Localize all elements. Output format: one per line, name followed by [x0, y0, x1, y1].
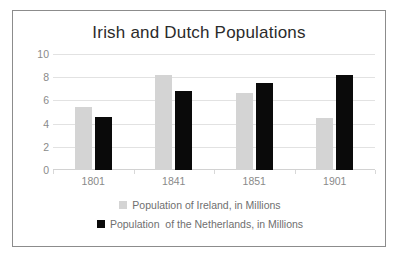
- x-axis-tick-1801: 1801: [53, 175, 134, 187]
- legend-swatch-icon-2: [97, 220, 105, 228]
- bar-1801-series-1: [75, 107, 92, 170]
- bar-groups: [53, 54, 375, 170]
- bar-1841-series-2: [175, 91, 192, 170]
- y-axis-tick-4: 4: [43, 118, 49, 130]
- x-axis-tick-1841: 1841: [134, 175, 215, 187]
- y-axis-tick-0: 0: [43, 164, 49, 176]
- legend-label-1: Population of Ireland, in Millions: [132, 199, 280, 211]
- category-tick-2: [214, 170, 215, 174]
- category-tick-1: [134, 170, 135, 174]
- bar-group-1901: [295, 54, 376, 170]
- bar-1851-series-2: [256, 83, 273, 170]
- legend-label-2: Population of the Netherlands, in Millio…: [110, 218, 303, 230]
- category-separator-ticks: [53, 170, 375, 174]
- y-axis-tick-10: 10: [37, 48, 49, 60]
- bar-1901-series-2: [336, 75, 353, 170]
- bar-group-1841: [134, 54, 215, 170]
- chart-plot-wrapper: 0246810 1801184118511901 Population of I…: [13, 11, 387, 248]
- bar-1841-series-1: [155, 75, 172, 170]
- bar-1851-series-1: [236, 93, 253, 170]
- bar-group-1801: [53, 54, 134, 170]
- y-axis-tick-6: 6: [43, 94, 49, 106]
- y-axis-tick-2: 2: [43, 141, 49, 153]
- chart-container: Irish and Dutch Populations 0246810 1801…: [12, 10, 386, 247]
- y-axis-tick-labels: 0246810: [27, 54, 49, 170]
- plot-area: [53, 54, 375, 170]
- bar-1801-series-2: [95, 117, 112, 170]
- category-tick-4: [375, 170, 376, 174]
- x-axis-tick-labels: 1801184118511901: [53, 175, 375, 187]
- legend-swatch-icon-1: [119, 201, 127, 209]
- chart-legend: Population of Ireland, in MillionsPopula…: [13, 199, 387, 237]
- y-axis-tick-8: 8: [43, 71, 49, 83]
- legend-item-2: Population of the Netherlands, in Millio…: [13, 218, 387, 230]
- x-axis-tick-1851: 1851: [214, 175, 295, 187]
- x-axis-tick-1901: 1901: [295, 175, 376, 187]
- category-tick-3: [295, 170, 296, 174]
- legend-item-1: Population of Ireland, in Millions: [13, 199, 387, 211]
- bar-group-1851: [214, 54, 295, 170]
- bar-1901-series-1: [316, 118, 333, 170]
- category-tick-0: [53, 170, 54, 174]
